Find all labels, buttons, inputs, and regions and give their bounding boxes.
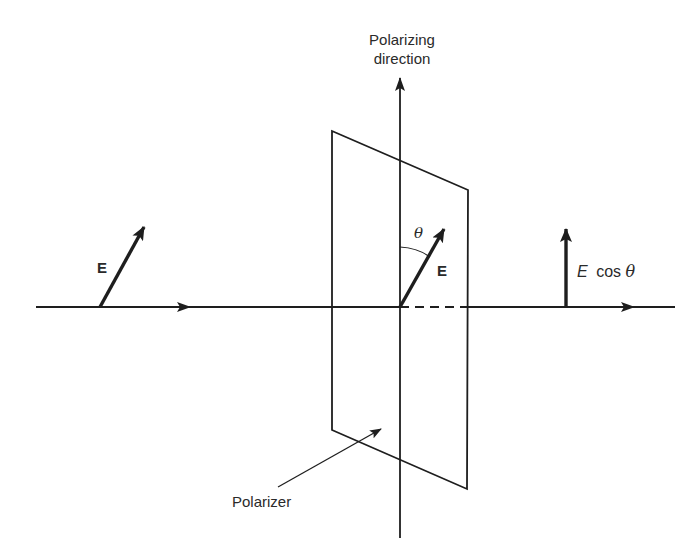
transmitted-theta-symbol: θ [625,262,635,281]
polarizer-label: Polarizer [232,494,291,509]
transmitted-field-label: E cos θ [577,264,635,280]
transmitted-e-symbol: E [577,263,588,280]
transmitted-cos-text: cos [596,263,621,280]
angle-theta-label: θ [414,226,423,241]
incident-field-label: E [97,260,107,275]
polarizing-direction-label: Polarizing direction [352,32,452,66]
polarizer-pointer-arrow [278,429,381,487]
polarizer-diagram: Polarizing direction E θ E E cos θ Polar… [0,0,699,560]
field-at-polarizer-label: E [437,263,447,278]
polarizing-direction-line2: direction [352,51,452,66]
diagram-canvas [0,0,699,560]
polarizing-direction-line1: Polarizing [352,32,452,47]
angle-theta-arc [400,247,430,257]
